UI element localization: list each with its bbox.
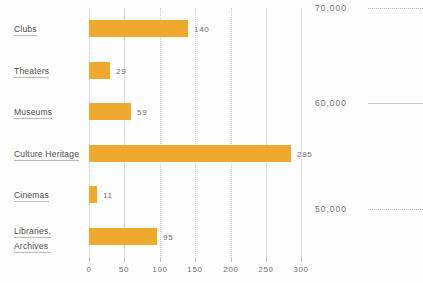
bar-museums[interactable] bbox=[89, 103, 131, 120]
secondary-tick-rule-60000 bbox=[368, 103, 423, 104]
x-tick-label-300: 300 bbox=[293, 265, 308, 274]
category-label-culture-heritage[interactable]: Culture Heritage bbox=[14, 149, 79, 161]
category-label-text: Museums bbox=[14, 107, 52, 119]
x-tick-label-100: 100 bbox=[152, 265, 167, 274]
gridline-100 bbox=[160, 8, 161, 258]
x-tick-mark-100 bbox=[160, 258, 161, 262]
gridline-300 bbox=[301, 8, 302, 258]
secondary-tick-70000: 70,000 bbox=[310, 3, 423, 15]
category-label-text: Culture Heritage bbox=[14, 149, 79, 161]
x-tick-mark-150 bbox=[195, 258, 196, 262]
bar-value-clubs: 140 bbox=[194, 24, 209, 33]
category-label-museums[interactable]: Museums bbox=[14, 107, 52, 119]
x-tick-label-50: 50 bbox=[119, 265, 129, 274]
x-tick-mark-200 bbox=[231, 258, 232, 262]
x-tick-mark-300 bbox=[301, 258, 302, 262]
gridline-150 bbox=[195, 8, 196, 258]
secondary-tick-50000: 50,000 bbox=[310, 204, 423, 216]
x-axis: 0 50 100 150 200 250 300 bbox=[89, 258, 302, 280]
category-label-text: Clubs bbox=[14, 24, 37, 36]
bar-value-museums: 59 bbox=[137, 107, 147, 116]
secondary-tick-60000: 60,000 bbox=[310, 98, 423, 110]
bar-libraries-archives[interactable] bbox=[89, 228, 157, 245]
bar-theaters[interactable] bbox=[89, 62, 110, 79]
category-label-text: Theaters bbox=[14, 66, 49, 78]
gridline-250 bbox=[266, 8, 267, 258]
x-tick-label-150: 150 bbox=[187, 265, 202, 274]
gridline-50 bbox=[124, 8, 125, 258]
category-label-libraries-archives[interactable]: Libraries, Archives bbox=[14, 226, 51, 253]
x-tick-mark-50 bbox=[124, 258, 125, 262]
bar-value-theaters: 29 bbox=[116, 66, 126, 75]
secondary-tick-rule-50000 bbox=[368, 209, 423, 210]
x-tick-mark-0 bbox=[89, 258, 90, 262]
x-tick-label-250: 250 bbox=[258, 265, 273, 274]
bar-value-libraries-archives: 95 bbox=[163, 232, 173, 241]
category-label-text-line2: Archives bbox=[14, 241, 51, 253]
x-tick-label-200: 200 bbox=[223, 265, 238, 274]
secondary-axis: 70,000 60,000 50,000 bbox=[310, 0, 423, 283]
category-label-clubs[interactable]: Clubs bbox=[14, 24, 37, 36]
bar-culture-heritage[interactable] bbox=[89, 145, 291, 162]
category-label-text-line1: Libraries, bbox=[14, 226, 51, 238]
bar-clubs[interactable] bbox=[89, 20, 188, 37]
gridline-200 bbox=[231, 8, 232, 258]
gridline-0 bbox=[89, 8, 90, 258]
bar-cinemas[interactable] bbox=[89, 186, 97, 203]
category-label-theaters[interactable]: Theaters bbox=[14, 66, 49, 78]
bar-value-cinemas: 11 bbox=[103, 190, 113, 199]
category-label-cinemas[interactable]: Cinemas bbox=[14, 190, 49, 202]
category-label-text: Cinemas bbox=[14, 190, 49, 202]
plot-area: 140 29 59 285 11 95 bbox=[89, 8, 302, 258]
secondary-tick-label-50000: 50,000 bbox=[315, 204, 347, 214]
secondary-tick-label-70000: 70,000 bbox=[315, 3, 347, 13]
x-tick-mark-250 bbox=[266, 258, 267, 262]
x-tick-label-0: 0 bbox=[86, 265, 91, 274]
secondary-tick-label-60000: 60,000 bbox=[315, 98, 347, 108]
bar-chart: Clubs Theaters Museums Culture Heritage … bbox=[0, 0, 423, 283]
secondary-tick-rule-70000 bbox=[368, 8, 423, 9]
